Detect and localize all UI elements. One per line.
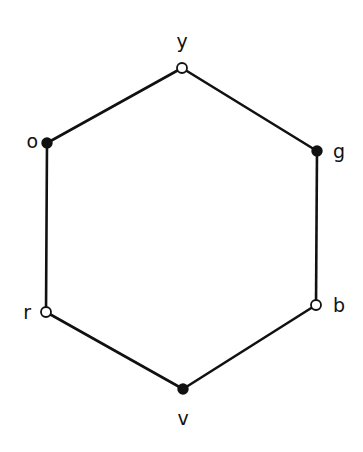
node-label-r: r <box>23 301 31 323</box>
node-v-filled-circle <box>178 384 188 394</box>
edge-g-b <box>316 151 317 305</box>
node-r-open-circle <box>41 307 51 317</box>
edge-b-v <box>183 305 316 389</box>
node-label-v: v <box>177 407 188 429</box>
node-g-filled-circle <box>312 146 322 156</box>
hexagon-diagram: ygbvro <box>0 0 363 452</box>
edge-r-o <box>46 143 47 312</box>
node-y-open-circle <box>177 63 187 73</box>
node-label-g: g <box>333 140 345 162</box>
node-label-b: b <box>333 294 345 316</box>
nodes-group <box>41 63 322 394</box>
edge-v-r <box>46 312 183 389</box>
node-label-o: o <box>26 130 38 152</box>
edge-o-y <box>47 68 182 143</box>
node-o-filled-circle <box>42 138 52 148</box>
labels-group: ygbvro <box>23 30 345 429</box>
edge-y-g <box>182 68 317 151</box>
node-label-y: y <box>176 30 187 52</box>
edges-group <box>46 68 317 389</box>
node-b-open-circle <box>311 300 321 310</box>
